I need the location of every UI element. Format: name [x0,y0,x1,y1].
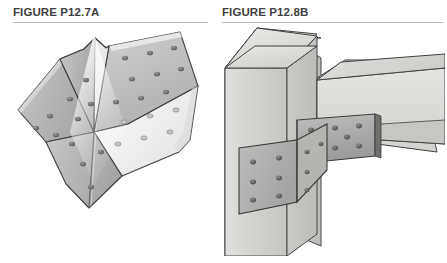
figure-a-caption: FIGURE P12.7A [13,6,99,18]
figure-a-caption-rule [13,22,208,23]
figure-a-illustration [8,24,214,214]
figure-b-illustration [215,24,445,256]
connector-plate-column-front [239,140,297,214]
figure-page: FIGURE P12.7A FIGURE P12.8B [0,0,447,263]
figure-b-caption: FIGURE P12.8B [222,6,308,18]
figure-b-caption-rule [222,22,443,23]
